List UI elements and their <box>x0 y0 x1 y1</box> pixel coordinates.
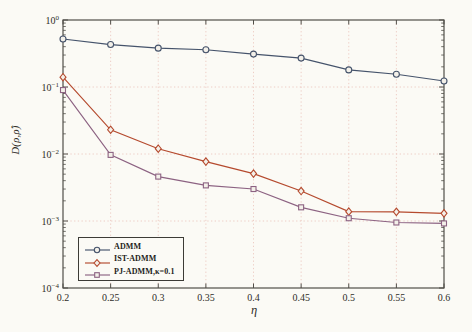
y-tick-label: 10−3 <box>42 215 59 227</box>
legend: ADMM IST-ADMM PJ-ADMM,κ=0.1 <box>78 237 184 281</box>
legend-item-admm: ADMM <box>84 240 183 253</box>
legend-item-pj-admm: PJ-ADMM,κ=0.1 <box>84 265 183 278</box>
figure-line-chart: D(ρ,ρ̂) η 10010−110−210−310−4 0.20.250.3… <box>0 0 472 332</box>
x-tick-label: 0.45 <box>292 292 310 303</box>
x-tick-label: 0.2 <box>57 292 70 303</box>
legend-label: ADMM <box>114 242 141 251</box>
y-tick-label: 100 <box>46 14 60 26</box>
x-tick-label: 0.55 <box>388 292 406 303</box>
x-tick-label: 0.3 <box>152 292 165 303</box>
legend-label: PJ-ADMM,κ=0.1 <box>114 267 175 276</box>
legend-marker-diamond-icon <box>84 254 111 264</box>
x-axis-label: η <box>243 303 265 318</box>
y-axis-label: D(ρ,ρ̂) <box>10 80 26 200</box>
x-tick-label: 0.4 <box>247 292 260 303</box>
x-tick-label: 0.6 <box>438 292 451 303</box>
y-tick-label: 10−2 <box>42 148 59 160</box>
x-tick-label: 0.5 <box>343 292 356 303</box>
chart-canvas <box>0 0 472 332</box>
legend-marker-circle-icon <box>84 241 111 251</box>
x-tick-label: 0.25 <box>102 292 120 303</box>
x-tick-label: 0.35 <box>197 292 215 303</box>
y-tick-label: 10−1 <box>42 81 59 93</box>
legend-item-ist-admm: IST-ADMM <box>84 253 183 266</box>
legend-marker-square-icon <box>84 266 111 276</box>
legend-label: IST-ADMM <box>114 254 156 263</box>
